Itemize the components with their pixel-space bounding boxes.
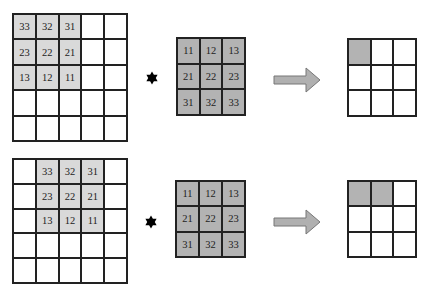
input-cell: 12 xyxy=(59,209,82,234)
kernel-cell: 13 xyxy=(222,181,245,206)
convolution-star-icon xyxy=(144,215,158,229)
input-cell xyxy=(81,65,104,90)
input-cell: 21 xyxy=(59,39,82,64)
kernel-cell: 12 xyxy=(199,181,222,206)
input-cell: 12 xyxy=(36,65,59,90)
input-cell xyxy=(81,14,104,39)
input-cell xyxy=(104,184,127,209)
input-cell xyxy=(81,258,104,283)
input-cell xyxy=(36,233,59,258)
input-cell: 33 xyxy=(13,14,36,39)
input-grid-row2: 33 32 31 23 22 21 13 12 11 xyxy=(12,158,128,284)
input-cell xyxy=(13,159,36,184)
output-cell xyxy=(371,39,394,65)
input-cell: 21 xyxy=(81,184,104,209)
input-cell xyxy=(13,233,36,258)
input-cell: 13 xyxy=(36,209,59,234)
input-grid-row1: 33 32 31 23 22 21 13 12 11 xyxy=(12,13,128,142)
kernel-cell: 11 xyxy=(176,181,199,206)
input-cell: 11 xyxy=(59,65,82,90)
kernel-cell: 32 xyxy=(199,232,222,257)
output-cell xyxy=(348,90,371,116)
input-cell xyxy=(104,258,127,283)
kernel-cell: 33 xyxy=(222,89,245,115)
kernel-cell: 23 xyxy=(222,206,245,231)
input-cell: 31 xyxy=(81,159,104,184)
output-cell-filled xyxy=(348,39,371,65)
input-cell: 22 xyxy=(36,39,59,64)
input-cell: 22 xyxy=(59,184,82,209)
output-cell xyxy=(393,39,416,65)
output-cell xyxy=(393,65,416,91)
input-cell: 11 xyxy=(81,209,104,234)
output-cell-filled xyxy=(371,181,394,206)
kernel-cell: 31 xyxy=(176,232,199,257)
input-cell xyxy=(59,233,82,258)
output-cell xyxy=(393,206,416,231)
input-cell xyxy=(36,258,59,283)
output-cell xyxy=(393,181,416,206)
input-cell xyxy=(81,116,104,141)
input-cell xyxy=(104,65,127,90)
input-cell: 23 xyxy=(36,184,59,209)
kernel-cell: 12 xyxy=(200,38,223,64)
output-cell-filled xyxy=(348,181,371,206)
input-cell xyxy=(81,39,104,64)
kernel-cell: 23 xyxy=(222,64,245,90)
kernel-cell: 21 xyxy=(176,206,199,231)
input-cell: 32 xyxy=(36,14,59,39)
input-cell xyxy=(104,39,127,64)
input-cell xyxy=(59,258,82,283)
kernel-cell: 32 xyxy=(200,89,223,115)
input-cell xyxy=(59,116,82,141)
input-cell xyxy=(36,90,59,115)
input-cell: 31 xyxy=(59,14,82,39)
input-cell xyxy=(59,90,82,115)
input-cell: 13 xyxy=(13,65,36,90)
input-cell xyxy=(104,116,127,141)
input-cell xyxy=(104,90,127,115)
output-cell xyxy=(393,90,416,116)
output-grid-row2 xyxy=(347,180,417,258)
output-cell xyxy=(348,232,371,257)
kernel-cell: 22 xyxy=(200,64,223,90)
input-cell xyxy=(81,90,104,115)
output-cell xyxy=(371,65,394,91)
kernel-cell: 11 xyxy=(177,38,200,64)
input-cell xyxy=(13,209,36,234)
convolution-star-icon xyxy=(145,71,159,85)
input-cell: 23 xyxy=(13,39,36,64)
output-cell xyxy=(371,206,394,231)
kernel-cell: 21 xyxy=(177,64,200,90)
input-cell xyxy=(104,14,127,39)
input-cell xyxy=(13,184,36,209)
kernel-cell: 13 xyxy=(222,38,245,64)
output-cell xyxy=(348,206,371,231)
output-cell xyxy=(393,232,416,257)
input-cell xyxy=(104,233,127,258)
kernel-cell: 22 xyxy=(199,206,222,231)
output-grid-row1 xyxy=(347,38,417,117)
kernel-cell: 33 xyxy=(222,232,245,257)
input-cell: 33 xyxy=(36,159,59,184)
output-cell xyxy=(371,90,394,116)
kernel-cell: 31 xyxy=(177,89,200,115)
kernel-grid-row2: 11 12 13 21 22 23 31 32 33 xyxy=(175,180,246,258)
input-cell xyxy=(81,233,104,258)
input-cell xyxy=(104,159,127,184)
input-cell: 32 xyxy=(59,159,82,184)
output-cell xyxy=(348,65,371,91)
input-cell xyxy=(104,209,127,234)
input-cell xyxy=(13,258,36,283)
output-cell xyxy=(371,232,394,257)
kernel-grid-row1: 11 12 13 21 22 23 31 32 33 xyxy=(176,37,246,116)
right-arrow-icon xyxy=(273,67,321,93)
input-cell xyxy=(36,116,59,141)
input-cell xyxy=(13,90,36,115)
input-cell xyxy=(13,116,36,141)
right-arrow-icon xyxy=(273,209,321,235)
